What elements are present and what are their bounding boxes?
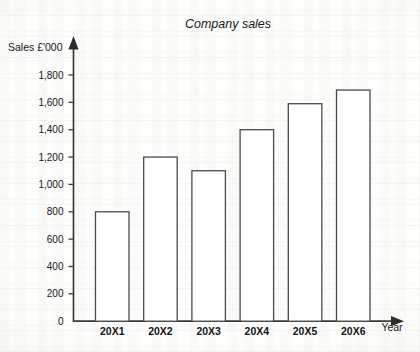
x-axis-tick-label: 20X2 xyxy=(148,325,173,337)
x-axis-tick-label: 20X6 xyxy=(341,325,366,337)
x-axis-category-labels: 20X120X220X320X420X520X6 xyxy=(100,325,366,337)
x-axis-tick-label: 20X4 xyxy=(245,325,270,337)
x-axis-tick-label: 20X5 xyxy=(293,325,318,337)
y-axis-tick-label: 1,400 xyxy=(38,124,63,135)
y-axis-label: Sales £'000 xyxy=(8,41,63,53)
bar-20X5 xyxy=(288,104,322,321)
bars-group xyxy=(96,90,371,321)
y-axis-tick-label: 600 xyxy=(47,234,64,245)
y-axis-tick-label: 800 xyxy=(47,206,64,217)
y-axis-tick-label: 0 xyxy=(58,316,64,327)
y-axis-ticks: 02004006008001,0001,2001,4001,6001,800 xyxy=(38,70,73,327)
y-axis-tick-label: 200 xyxy=(47,288,64,299)
y-axis-tick-label: 1,800 xyxy=(38,70,63,81)
bar-20X3 xyxy=(192,171,226,321)
y-axis-tick-label: 1,000 xyxy=(38,179,63,190)
y-axis-tick-label: 1,200 xyxy=(38,152,63,163)
bar-20X1 xyxy=(96,212,130,321)
chart-title: Company sales xyxy=(185,17,271,31)
y-axis-tick-label: 1,600 xyxy=(38,97,63,108)
x-axis-tick-label: 20X3 xyxy=(196,325,221,337)
y-axis-arrow-icon xyxy=(68,36,78,50)
x-axis-tick-label: 20X1 xyxy=(100,325,125,337)
bar-chart: Company sales Sales £'000 Year 020040060… xyxy=(0,0,420,352)
bar-20X4 xyxy=(240,130,274,321)
y-axis-tick-label: 400 xyxy=(47,261,64,272)
bar-20X2 xyxy=(144,157,178,321)
bar-20X6 xyxy=(337,90,371,321)
